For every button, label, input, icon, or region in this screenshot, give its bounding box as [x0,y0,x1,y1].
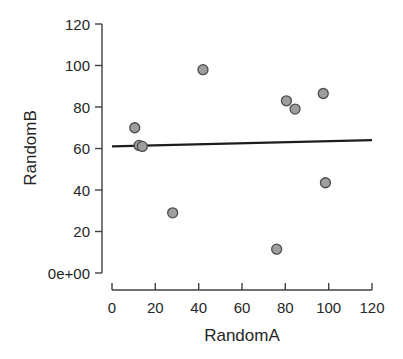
data-point [281,96,291,106]
x-tick-label-60: 60 [234,299,251,316]
data-point [198,65,208,75]
x-tick-label-100: 100 [316,299,341,316]
y-tick-label-80: 80 [73,99,90,116]
y-tick-label-100: 100 [65,57,90,74]
x-axis-ticks [112,283,372,290]
y-tick-label-0: 0e+00 [48,265,90,282]
data-points-layer [130,65,331,254]
y-tick-label-120: 120 [65,16,90,33]
y-tick-label-20: 20 [73,223,90,240]
y-tick-label-60: 60 [73,140,90,157]
y-axis-tick-labels: 0e+00 20 40 60 80 100 120 [48,16,90,282]
y-axis-ticks [95,24,102,273]
data-point [137,141,147,151]
data-point [272,244,282,254]
data-point [318,89,328,99]
data-point [290,104,300,114]
x-tick-label-0: 0 [108,299,116,316]
x-tick-label-20: 20 [147,299,164,316]
data-point [130,123,140,133]
data-point [320,178,330,188]
x-tick-label-80: 80 [277,299,294,316]
x-axis-title: RandomA [204,326,280,345]
scatter-plot-figure: 0e+00 20 40 60 80 100 120 0 20 40 60 80 … [0,0,403,359]
regression-line [112,140,372,146]
data-point [168,208,178,218]
x-tick-label-40: 40 [190,299,207,316]
x-tick-label-120: 120 [359,299,384,316]
x-axis-tick-labels: 0 20 40 60 80 100 120 [108,299,385,316]
plot-canvas: 0e+00 20 40 60 80 100 120 0 20 40 60 80 … [0,0,403,359]
y-axis-title: RandomB [21,110,40,186]
y-tick-label-40: 40 [73,182,90,199]
